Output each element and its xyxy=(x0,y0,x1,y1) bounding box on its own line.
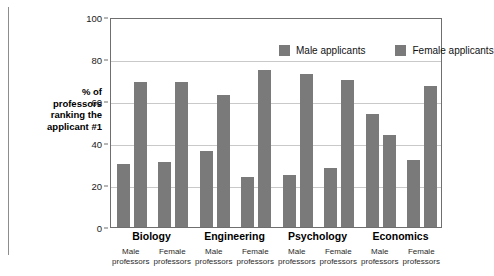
group-label-line: Male xyxy=(361,247,398,257)
legend-swatch-icon xyxy=(279,45,290,56)
legend-label: Female applicants xyxy=(412,45,493,56)
group-label: Femaleprofessors xyxy=(403,247,440,267)
group-label: Maleprofessors xyxy=(361,247,398,267)
bar xyxy=(300,74,313,227)
category-label: Economics xyxy=(372,230,428,242)
bar xyxy=(407,160,420,227)
chart-legend: Male applicantsFemale applicants xyxy=(279,45,494,56)
legend-swatch-icon xyxy=(395,45,406,56)
y-tick-mark xyxy=(104,18,108,19)
y-tick-mark xyxy=(104,144,108,145)
group-label-line: professors xyxy=(278,257,315,267)
group-label-line: Male xyxy=(278,247,315,257)
y-tick-mark xyxy=(104,228,108,229)
bar xyxy=(158,162,171,227)
category-label: Engineering xyxy=(204,230,265,242)
bar xyxy=(383,135,396,227)
group-label-line: professors xyxy=(361,257,398,267)
group-label-line: Female xyxy=(154,247,191,257)
legend-entry[interactable]: Male applicants xyxy=(279,45,365,56)
y-tick-label: 40 xyxy=(91,139,102,150)
y-tick-label: 80 xyxy=(91,55,102,66)
group-label-line: professors xyxy=(195,257,232,267)
group-label-line: Female xyxy=(237,247,274,257)
group-label-line: Female xyxy=(403,247,440,257)
y-tick-mark xyxy=(104,186,108,187)
group-label-line: professors xyxy=(320,257,357,267)
y-tick-mark xyxy=(104,102,108,103)
group-label-line: professors xyxy=(154,257,191,267)
group-label: Maleprofessors xyxy=(112,247,149,267)
group-label-line: Male xyxy=(112,247,149,257)
bar xyxy=(117,164,130,227)
group-label-line: Male xyxy=(195,247,232,257)
y-axis-ticks: 020406080100 xyxy=(78,18,108,228)
group-label-line: Female xyxy=(320,247,357,257)
bar xyxy=(217,95,230,227)
group-axis-labels: MaleprofessorsFemaleprofessorsMaleprofes… xyxy=(104,247,448,271)
group-label-line: professors xyxy=(112,257,149,267)
group-label: Femaleprofessors xyxy=(237,247,274,267)
plot-area: Male applicantsFemale applicants xyxy=(110,18,442,228)
y-tick-label: 20 xyxy=(91,181,102,192)
bar xyxy=(241,177,254,227)
bar xyxy=(175,82,188,227)
left-border-rule xyxy=(8,7,9,255)
group-label: Femaleprofessors xyxy=(154,247,191,267)
bar xyxy=(324,168,337,227)
group-label-line: professors xyxy=(237,257,274,267)
legend-entry[interactable]: Female applicants xyxy=(395,45,493,56)
category-axis-labels: BiologyEngineeringPsychologyEconomics xyxy=(110,230,442,244)
group-label: Maleprofessors xyxy=(278,247,315,267)
y-tick-mark xyxy=(104,60,108,61)
group-label-line: professors xyxy=(403,257,440,267)
category-label: Biology xyxy=(132,230,171,242)
y-tick-label: 60 xyxy=(91,97,102,108)
bar xyxy=(258,70,271,228)
bar xyxy=(200,151,213,227)
bar xyxy=(366,114,379,227)
y-tick-label: 100 xyxy=(86,13,102,24)
bar xyxy=(283,175,296,228)
bar xyxy=(341,80,354,227)
bar xyxy=(134,82,147,227)
group-label: Femaleprofessors xyxy=(320,247,357,267)
y-tick-label: 0 xyxy=(97,223,102,234)
bar xyxy=(424,86,437,227)
category-label: Psychology xyxy=(288,230,347,242)
group-label: Maleprofessors xyxy=(195,247,232,267)
legend-label: Male applicants xyxy=(296,45,365,56)
